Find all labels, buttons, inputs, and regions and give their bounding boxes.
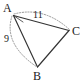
vertex-label-b: B bbox=[33, 70, 41, 81]
arc-a-to-b-dotted bbox=[10, 16, 37, 67]
triangle-diagram: A B C 11 9 bbox=[0, 0, 83, 81]
edge-length-label-ab: 9 bbox=[4, 34, 9, 44]
edge-b-to-c bbox=[38, 31, 70, 68]
vertex-label-a: A bbox=[3, 2, 12, 14]
vertex-label-c: C bbox=[72, 25, 80, 37]
edge-length-label-ac: 11 bbox=[33, 10, 43, 20]
edge-a-to-b bbox=[14, 16, 38, 68]
